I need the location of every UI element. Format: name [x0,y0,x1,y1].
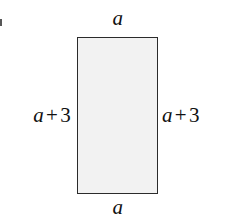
top-side-label: a [0,8,226,29]
right-side-variable: a [162,103,173,127]
bottom-side-label: a [0,197,226,218]
left-side-number: 3 [60,103,71,127]
rectangle-shape [77,37,158,194]
right-side-operator: + [173,103,189,127]
bottom-side-variable: a [113,195,124,219]
left-side-variable: a [33,103,44,127]
top-side-variable: a [113,6,124,30]
geometry-figure: a a a+3 a+3 [0,0,226,222]
right-side-label: a+3 [162,105,226,126]
right-side-number: 3 [189,103,200,127]
left-side-operator: + [44,103,60,127]
left-side-label: a+3 [0,105,71,126]
